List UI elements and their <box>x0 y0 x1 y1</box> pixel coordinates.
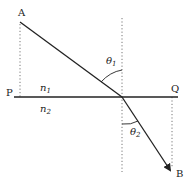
point-label-a: A <box>17 7 26 18</box>
medium-label-n1: n1 <box>40 82 51 95</box>
medium-label-n2: n2 <box>40 103 51 116</box>
point-label-b: B <box>176 168 183 179</box>
point-label-p: P <box>6 87 13 98</box>
angle-arc-theta2 <box>122 121 138 124</box>
point-label-q: Q <box>171 83 179 94</box>
angle-arc-theta1 <box>101 70 122 82</box>
refraction-diagram: A P Q B n1 n2 θ1 θ2 <box>0 0 189 189</box>
angle-label-theta2: θ2 <box>130 126 141 139</box>
angle-label-theta1: θ1 <box>106 55 117 68</box>
